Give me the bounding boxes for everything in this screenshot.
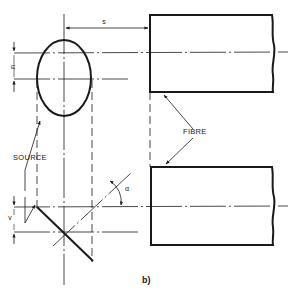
label-source: SOURCE: [13, 153, 47, 162]
label-v: v: [8, 214, 12, 221]
diagram-canvas: s u v α SOURCE FIBRE b): [0, 0, 288, 295]
fibre-top: [150, 15, 274, 92]
label-alpha: α: [125, 185, 129, 192]
projection-lines: [37, 80, 150, 262]
label-u: u: [10, 65, 17, 69]
label-s: s: [102, 18, 106, 25]
figure-caption: b): [142, 275, 151, 285]
source-side-view: [37, 207, 93, 261]
label-fibre: FIBRE: [183, 127, 207, 136]
angle-alpha-arc: [110, 181, 121, 205]
